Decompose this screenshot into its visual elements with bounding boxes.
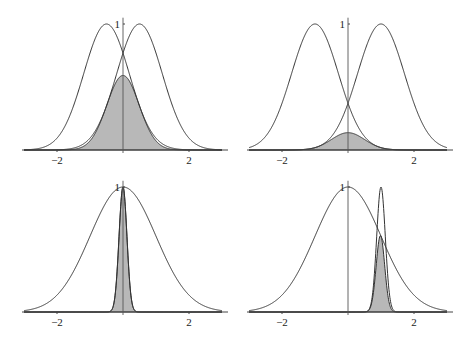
y-tick-label-1: 1 — [340, 181, 346, 193]
x-tick-label-neg2: −2 — [276, 154, 288, 166]
chart-panel-top-left: −221 — [22, 18, 228, 166]
y-tick-label-1: 1 — [115, 18, 121, 30]
x-tick-label-neg2: −2 — [51, 154, 63, 166]
x-tick-label-2: 2 — [186, 154, 192, 166]
y-tick-label-1: 1 — [115, 181, 121, 193]
x-tick-label-2: 2 — [411, 154, 417, 166]
chart-panel-bottom-right: −221 — [247, 181, 453, 328]
chart-panel-top-right: −221 — [247, 18, 453, 166]
x-tick-label-neg2: −2 — [276, 316, 288, 328]
x-tick-label-2: 2 — [186, 316, 192, 328]
chart-panel-bottom-left: −221 — [22, 181, 228, 328]
y-tick-label-1: 1 — [340, 18, 346, 30]
figure: −221−221−221−221 — [0, 0, 471, 337]
x-tick-label-neg2: −2 — [51, 316, 63, 328]
x-tick-label-2: 2 — [411, 316, 417, 328]
